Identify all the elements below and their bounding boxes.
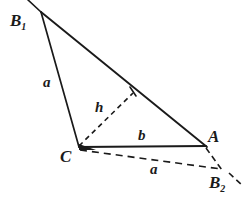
vertex-label-b1-subscript: 1 [21,21,26,32]
side-label-a-lower: a [150,162,158,177]
segment-c-a-line [79,146,206,147]
vertex-label-a: A [208,128,219,145]
vertex-label-b2-text: B [209,173,220,192]
vertex-label-b2-subscript: 2 [220,183,225,194]
side-label-h: h [95,100,103,115]
vertex-label-c-text: C [60,147,71,166]
vertex-label-c: C [60,148,71,165]
side-label-b: b [138,128,146,143]
side-label-a-upper: a [43,75,51,90]
segment-b1-a-line [41,12,207,147]
vertex-label-b2: B2 [209,174,225,191]
ray-beyond-b2-line [229,173,243,186]
geometry-canvas [0,0,248,201]
vertex-label-b1: B1 [10,12,26,29]
vertex-label-b1-text: B [10,11,21,30]
altitude-c-h-line [79,93,133,146]
vertex-label-a-text: A [208,127,219,146]
segment-a-b2-line [206,148,222,170]
geometry-figure: B1 C A B2 a h b a [0,0,248,201]
ray-above-b1-line [28,0,41,12]
